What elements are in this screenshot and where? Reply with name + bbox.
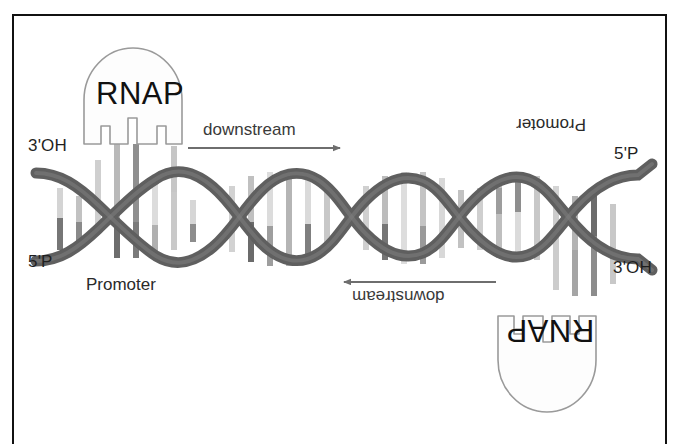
rnap-bottom-label: RNAP [506,312,594,348]
strand-end-right-top: 5'P [614,144,639,164]
strand-end-left-bottom: 5'P [28,252,53,272]
dna-double-helix [36,164,652,270]
strand-end-left-top: 3'OH [28,136,67,156]
promoter-left-label: Promoter [86,275,156,295]
downstream-bottom-label: downstream [352,286,445,306]
strand-end-right-bottom: 3'OH [613,258,652,278]
promoter-right-label: Promoter [516,114,586,134]
downstream-top-label: downstream [203,120,296,140]
base-pair-rungs [60,144,613,296]
rnap-top-label: RNAP [96,76,184,112]
